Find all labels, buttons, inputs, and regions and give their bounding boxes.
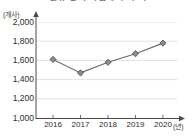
y-tick-label: 1,600 <box>13 56 34 65</box>
x-axis-tick-marks <box>53 115 163 118</box>
y-axis-tick-labels: 2,0001,8001,6001,4001,2001,000 <box>0 0 34 139</box>
y-tick-label: 1,200 <box>13 94 34 103</box>
x-tick-label: 2018 <box>99 121 117 129</box>
x-tick-label: 2020 <box>154 121 172 129</box>
y-tick-label: 1,400 <box>13 75 34 84</box>
data-point-marker[interactable] <box>77 70 83 76</box>
chart-figure: 신규 등록 사업체 수 추이 (개사) 2,0001,8001,6001,400… <box>0 0 196 139</box>
y-tick-label: 1,800 <box>13 37 34 46</box>
x-tick-label: 2017 <box>72 121 90 129</box>
x-tick-label: 2016 <box>44 121 62 129</box>
series-line <box>53 43 163 73</box>
y-tick-label: 2,000 <box>13 18 34 27</box>
y-axis-arrow <box>33 11 39 17</box>
x-axis-unit-label: (년) <box>173 121 184 131</box>
data-point-marker[interactable] <box>132 51 138 57</box>
x-tick-label: 2019 <box>127 121 145 129</box>
plot-area <box>36 22 183 118</box>
data-series <box>50 40 166 76</box>
data-point-marker[interactable] <box>50 56 56 62</box>
line-chart-svg <box>36 22 183 118</box>
y-tick-label: 1,000 <box>13 114 34 123</box>
